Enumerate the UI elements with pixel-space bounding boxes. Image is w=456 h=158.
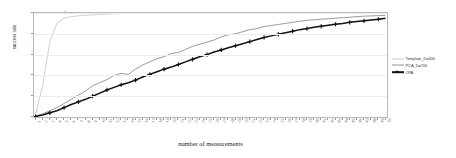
series-marker-plus [248,40,252,44]
x-tick-label: 8 [86,119,91,123]
gridline [34,34,387,35]
series-marker-plus [76,100,80,104]
x-tick-label: 4 [57,119,62,123]
x-tick-label: 50 [386,117,392,123]
legend-key: + [392,70,404,75]
legend-label: PCA_D=700 [406,63,428,68]
x-tick-label: 1 [36,119,41,123]
gridline [34,13,387,14]
legend-line-swatch [392,65,404,66]
series-canvas [34,13,387,117]
series-marker-plus [262,35,266,39]
series-marker-plus [233,44,237,48]
series-marker-plus [119,83,123,87]
series-marker-plus [362,19,366,23]
x-tick-label: 2 [43,119,48,123]
series-marker-plus [376,17,380,21]
legend-item: PCA_D=700 [392,63,454,68]
x-tick-label: 5 [64,119,69,123]
series-marker-plus [219,48,223,52]
series-marker-plus [191,57,195,61]
legend-label: CPA [406,70,414,75]
series-marker-plus [162,67,166,71]
x-tick-label: 7 [79,119,84,123]
series-marker-plus [348,20,352,24]
gridline [34,96,387,97]
series-marker-plus [305,27,309,31]
legend-item: +CPA [392,70,454,75]
x-axis-tick-labels: 1234567891011121314151617181920212223242… [33,119,388,138]
series-marker-plus [176,62,180,66]
plot-area [33,12,388,118]
gridline [34,75,387,76]
series-marker-plus [333,22,337,26]
figure: success rate 00.20.40.60.81 123456789101… [0,0,456,158]
series-marker-plus [62,106,66,110]
series-marker-plus [291,29,295,33]
series-line-template-d-300 [36,13,386,115]
series-marker-plus [319,24,323,28]
series-marker-plus [133,78,137,82]
legend-key [392,56,404,61]
series-line-pca-d-700 [36,15,386,116]
x-tick-label: 9 [93,119,98,123]
x-axis-label: number of measurements [33,140,388,147]
legend-line-swatch [392,58,404,59]
x-tick-label: 6 [71,119,76,123]
y-axis-label: success rate [11,5,17,69]
legend-label: Template_D=300 [406,56,436,61]
x-tick-label: 3 [50,119,55,123]
series-marker-plus [105,88,109,92]
legend-item: Template_D=300 [392,56,454,61]
gridline [34,55,387,56]
legend: Template_D=300PCA_D=700+CPA [392,56,454,76]
